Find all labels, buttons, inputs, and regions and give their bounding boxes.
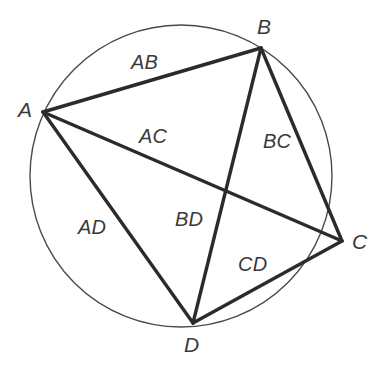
segment-label-BD: BD <box>175 209 203 229</box>
vertex-label-A: A <box>18 99 32 120</box>
segment-BD <box>193 48 261 323</box>
vertex-label-C: C <box>352 231 367 252</box>
segment-label-AB: AB <box>131 52 158 72</box>
geometry-canvas <box>0 0 381 371</box>
segment-label-CD: CD <box>238 254 267 274</box>
vertex-label-D: D <box>184 334 199 355</box>
geometry-figure: A B C D AB BC CD AD AC BD <box>0 0 381 371</box>
segment-label-AC: AC <box>139 126 167 146</box>
chord-group <box>43 48 342 323</box>
segment-label-BC: BC <box>263 131 291 151</box>
segment-CD <box>193 241 342 323</box>
segment-label-AD: AD <box>78 217 106 237</box>
vertex-label-B: B <box>257 16 271 37</box>
